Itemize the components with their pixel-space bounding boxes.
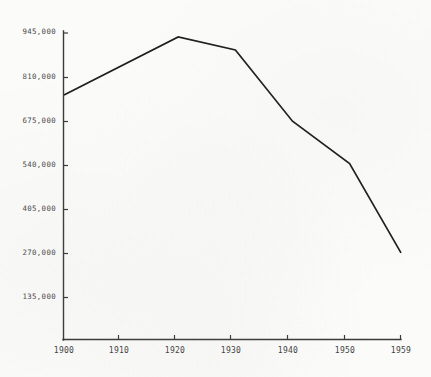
chart-plot-area (0, 0, 431, 377)
x-tick-label-1900: 1900 (42, 347, 86, 355)
y-tick-label-wrap-945000: 945,000 (0, 28, 56, 38)
y-tick-label-wrap-810000: 810,000 (0, 73, 56, 83)
y-tick-label-270000: 270,000 (22, 249, 56, 256)
y-tick-label-wrap-540000: 540,000 (0, 161, 56, 171)
y-tick-label-405000: 405,000 (22, 205, 56, 212)
line-chart: 945,000 810,000 675,000 540,000 405,000 … (0, 0, 431, 377)
y-tick-label-wrap-675000: 675,000 (0, 117, 56, 127)
data-series-line (64, 37, 401, 253)
x-tick-label-1940: 1940 (266, 347, 310, 355)
x-tick-label-1910: 1910 (97, 347, 141, 355)
y-tick-label-810000: 810,000 (22, 73, 56, 80)
x-tick-label-1930: 1930 (209, 347, 253, 355)
y-tick-label-135000: 135,000 (22, 293, 56, 300)
y-tick-label-675000: 675,000 (22, 117, 56, 124)
x-tick-label-1959: 1959 (379, 347, 423, 355)
y-tick-label-wrap-135000: 135,000 (0, 293, 56, 303)
y-tick-label-wrap-405000: 405,000 (0, 205, 56, 215)
y-tick-label-945000: 945,000 (22, 28, 56, 35)
y-tick-label-wrap-270000: 270,000 (0, 249, 56, 259)
x-tick-label-1950: 1950 (323, 347, 367, 355)
x-tick-label-1920: 1920 (153, 347, 197, 355)
y-tick-label-540000: 540,000 (22, 161, 56, 168)
